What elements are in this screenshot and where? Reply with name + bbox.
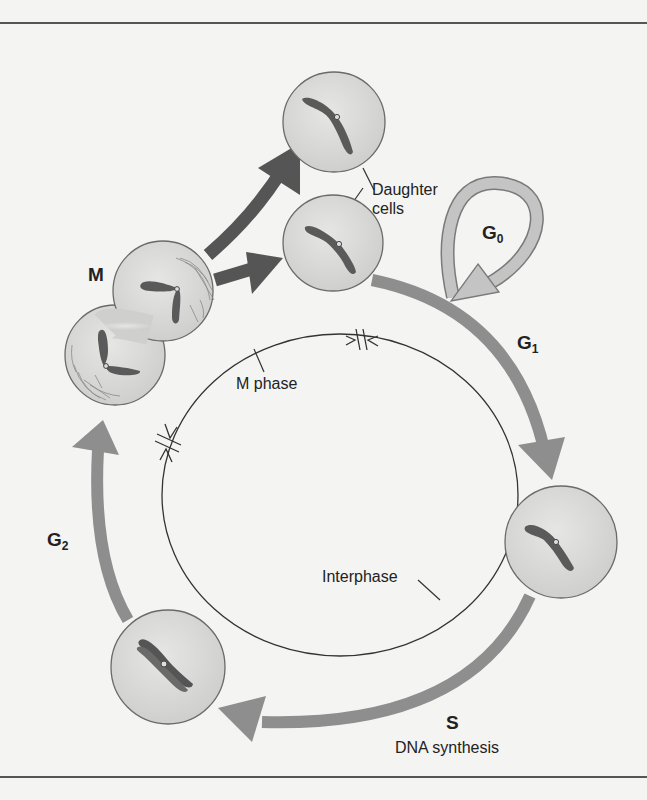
g1-label: G1 <box>517 332 538 356</box>
g1-arrow <box>372 280 565 480</box>
interphase-label: Interphase <box>322 567 398 586</box>
daughter-cells-line1: Daughter <box>372 180 438 199</box>
g2-arrow <box>72 420 128 620</box>
cell-cycle-diagram: Daughter cells M G0 G1 G2 M phase Interp… <box>0 0 647 800</box>
division-arrow-lower <box>215 252 283 294</box>
m-phase-leader <box>254 349 264 372</box>
dna-synthesis-label: DNA synthesis <box>395 738 499 757</box>
g1-sub: 1 <box>532 342 539 356</box>
g0-label: G0 <box>482 222 503 246</box>
m-phase-label: M phase <box>236 374 297 393</box>
g0-sub: 0 <box>497 232 504 246</box>
s-label: S <box>446 712 459 734</box>
g2-label: G2 <box>47 529 68 553</box>
g0-base: G <box>482 222 497 243</box>
s-arrow <box>218 596 530 742</box>
daughter-cell-top <box>283 72 385 172</box>
daughter-cell-bottom <box>283 195 383 291</box>
diagram-canvas <box>0 0 647 800</box>
g2-sub: 2 <box>62 539 69 553</box>
inner-cycle-circle <box>162 334 518 656</box>
daughter-cells-line2: cells <box>372 199 438 218</box>
m-label: M <box>88 264 104 286</box>
cell-g1-end <box>505 486 617 598</box>
g1-base: G <box>517 332 532 353</box>
m-phase-boundary-top <box>346 329 378 350</box>
interphase-leader <box>418 580 440 600</box>
daughter-cells-label: Daughter cells <box>372 180 438 218</box>
cell-g2 <box>111 610 225 724</box>
g2-base: G <box>47 529 62 550</box>
